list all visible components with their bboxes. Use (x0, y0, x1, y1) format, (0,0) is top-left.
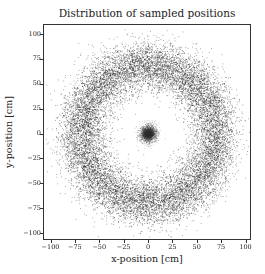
y-tick-label: 25 (11, 104, 41, 112)
y-tick-mark (40, 84, 43, 85)
y-tick-mark (40, 158, 43, 159)
x-tick-mark (75, 240, 76, 243)
y-tick-mark (40, 183, 43, 184)
x-tick-mark (124, 240, 125, 243)
y-tick-mark (40, 34, 43, 35)
y-tick-mark (40, 134, 43, 135)
y-tick-label: 75 (11, 54, 41, 62)
y-tick-label: 0 (11, 129, 41, 137)
x-tick-mark (99, 240, 100, 243)
x-axis-label: x-position [cm] (43, 253, 251, 264)
chart-title: Distribution of sampled positions (43, 7, 251, 19)
y-tick-mark (40, 109, 43, 110)
y-tick-label: −50 (11, 179, 41, 187)
y-tick-label: −100 (11, 229, 41, 237)
x-tick-label: 100 (231, 243, 261, 251)
x-tick-mark (148, 240, 149, 243)
plot-area (43, 24, 251, 240)
x-tick-mark (246, 240, 247, 243)
y-tick-mark (40, 233, 43, 234)
y-tick-label: 50 (11, 79, 41, 87)
y-tick-label: 100 (11, 30, 41, 38)
x-tick-mark (221, 240, 222, 243)
y-tick-label: −25 (11, 154, 41, 162)
x-tick-mark (197, 240, 198, 243)
y-tick-label: −75 (11, 204, 41, 212)
y-tick-mark (40, 59, 43, 60)
y-tick-mark (40, 208, 43, 209)
x-tick-mark (172, 240, 173, 243)
x-tick-mark (51, 240, 52, 243)
scatter-canvas (44, 25, 250, 239)
